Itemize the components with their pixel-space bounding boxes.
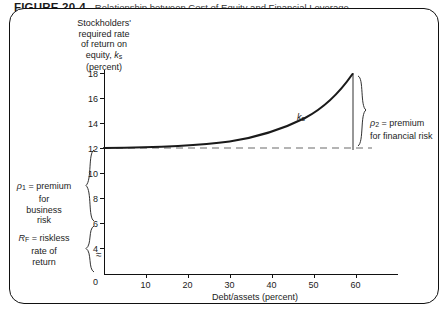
annotation-business-risk-line-3: business	[8, 205, 80, 216]
chart-plot-area: Stockholders' required rate of return on…	[0, 0, 448, 312]
rho2-subscript: 2	[375, 121, 379, 128]
financial-risk-bracket	[358, 76, 366, 146]
annotation-financial-risk-text-1: = premium	[382, 118, 425, 128]
annotation-business-risk-line-2: for	[8, 194, 80, 205]
curve-label-subscript: s	[302, 115, 306, 122]
annotation-business-risk-text-1: = premium	[28, 181, 71, 191]
annotation-financial-risk-line-1: ρ2 = premium	[370, 118, 444, 131]
figure-root: FIGURE 20-4Relationship between Cost of …	[0, 0, 448, 312]
rf-subscript: F	[25, 236, 29, 243]
annotation-financial-risk: ρ2 = premium for financial risk	[370, 118, 444, 142]
annotation-riskless-rate: RF = riskless rate of return	[8, 233, 80, 267]
annotation-financial-risk-line-2: for financial risk	[370, 131, 444, 142]
annotation-riskless-rate-line-1: RF = riskless	[8, 233, 80, 246]
annotation-business-risk: ρ1 = premium for business risk	[8, 181, 80, 226]
cost-of-equity-curve	[104, 74, 353, 148]
riskless-rate-bracket	[86, 226, 94, 272]
annotation-riskless-rate-text-1: = riskless	[32, 233, 70, 243]
curve-label-ks: ks	[297, 112, 317, 125]
rho1-subscript: 1	[22, 184, 26, 191]
annotation-riskless-rate-line-2: rate of	[8, 246, 80, 257]
annotation-riskless-rate-line-3: return	[8, 257, 80, 268]
annotation-business-risk-line-4: risk	[8, 215, 80, 226]
business-risk-bracket	[86, 150, 94, 221]
annotation-business-risk-line-1: ρ1 = premium	[8, 181, 80, 194]
